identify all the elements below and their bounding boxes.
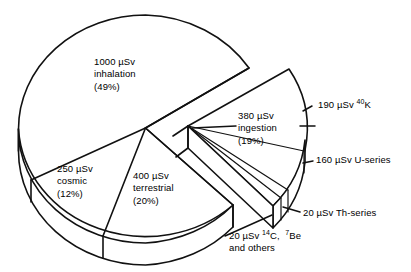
label-ingestion-percent: (19%)	[238, 135, 277, 147]
label-cbe-line2: and others	[229, 242, 301, 254]
label-u-series: 160 µSv U-series	[316, 154, 391, 166]
label-th-series-text: 20 µSv Th-series	[303, 207, 376, 218]
label-k40-value: 190 µSv	[318, 99, 357, 110]
radiation-dose-pie-figure: 1000 µSv inhalation (49%) 250 µSv cosmic…	[0, 0, 411, 272]
label-inhalation: 1000 µSv inhalation (49%)	[94, 56, 136, 93]
label-cbe-mass-14: 14	[262, 229, 270, 236]
label-k40-element: K	[365, 99, 371, 110]
label-cosmic-name: cosmic	[57, 175, 93, 187]
label-cosmic: 250 µSv cosmic (12%)	[57, 163, 93, 200]
label-terrestrial-value: 400 µSv	[133, 170, 174, 182]
label-inhalation-percent: (49%)	[94, 81, 136, 93]
label-cosmic-value: 250 µSv	[57, 163, 93, 175]
label-cbe-line1: 20 µSv 14C, 7Be	[229, 230, 301, 242]
label-terrestrial-name: terrestrial	[133, 182, 174, 194]
label-inhalation-value: 1000 µSv	[94, 56, 136, 68]
label-ingestion-name: ingestion	[238, 122, 277, 134]
label-u-series-text: 160 µSv U-series	[316, 154, 391, 165]
label-cosmic-percent: (12%)	[57, 188, 93, 200]
label-terrestrial: 400 µSv terrestrial (20%)	[133, 170, 174, 207]
label-inhalation-name: inhalation	[94, 68, 136, 80]
label-cbe-value: 20 µSv	[229, 230, 262, 241]
label-cbe-carbon: C,	[270, 230, 285, 241]
label-cbe-beryllium: Be	[289, 230, 301, 241]
wedge-notch	[173, 126, 188, 157]
label-k40: 190 µSv 40K	[318, 99, 371, 111]
label-c14-be7-others: 20 µSv 14C, 7Be and others	[229, 230, 301, 255]
label-ingestion-value: 380 µSv	[238, 110, 277, 122]
label-th-series: 20 µSv Th-series	[303, 207, 376, 219]
label-terrestrial-percent: (20%)	[133, 195, 174, 207]
pie-chart-graphic	[0, 0, 411, 272]
label-k40-mass-number: 40	[357, 98, 365, 105]
label-ingestion: 380 µSv ingestion (19%)	[238, 110, 277, 147]
